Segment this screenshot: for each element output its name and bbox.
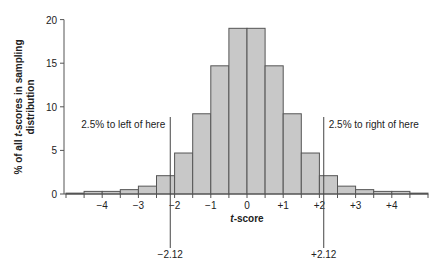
y-tick-label: 15: [46, 58, 58, 69]
critical-value-label: +2.12: [311, 249, 337, 260]
histogram-bar: [175, 153, 193, 194]
y-tick-label: 10: [46, 102, 58, 113]
histogram-bar: [138, 186, 156, 194]
histogram-bars: [66, 28, 428, 194]
y-axis: 05101520: [46, 15, 64, 200]
x-tick-label: −1: [205, 200, 217, 211]
x-tick-label: +3: [350, 200, 362, 211]
y-axis-title-line-2: distribution: [25, 80, 36, 135]
right-tail-annotation: 2.5% to right of here: [329, 119, 419, 130]
y-axis-title-line-1: % of all t-scores in sampling: [13, 39, 24, 174]
y-axis-title: % of all t-scores in sampling distributi…: [13, 39, 36, 174]
x-tick-label: +4: [386, 200, 398, 211]
left-tail-annotation: 2.5% to left of here: [81, 119, 165, 130]
x-tick-label: −4: [96, 200, 108, 211]
histogram-bar: [193, 114, 211, 194]
histogram-bar: [157, 176, 175, 194]
y-tick-label: 5: [51, 145, 57, 156]
x-axis-title: t-score: [230, 213, 264, 224]
x-tick-label: 0: [244, 200, 250, 211]
x-axis: −4−3−2−10+1+2+3+4: [64, 194, 428, 211]
t-distribution-histogram: 05101520 −4−3−2−10+1+2+3+4 −2.122.5% to …: [0, 0, 439, 265]
histogram-bar: [120, 190, 138, 194]
y-tick-label: 0: [51, 189, 57, 200]
histogram-bar: [338, 186, 356, 194]
histogram-bar: [229, 28, 247, 194]
y-tick-label: 20: [46, 15, 58, 26]
histogram-bar: [301, 153, 319, 194]
histogram-bar: [319, 176, 337, 194]
histogram-bar: [283, 114, 301, 194]
histogram-bar: [265, 66, 283, 194]
x-tick-label: +1: [277, 200, 289, 211]
histogram-bar: [356, 190, 374, 194]
x-axis-title-rest: -score: [234, 213, 264, 224]
critical-value-label: −2.12: [158, 249, 184, 260]
x-tick-label: −3: [133, 200, 145, 211]
histogram-bar: [211, 66, 229, 194]
histogram-bar: [247, 28, 265, 194]
